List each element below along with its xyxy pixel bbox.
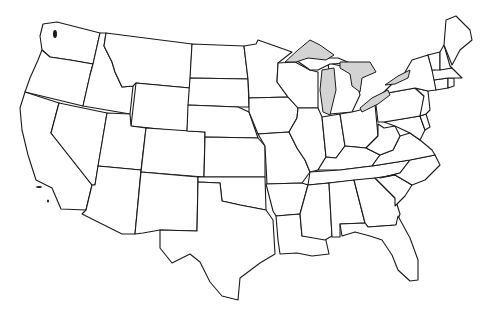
state-florida[interactable] xyxy=(340,216,418,281)
state-maine[interactable] xyxy=(444,16,472,65)
channel-island xyxy=(36,186,42,188)
us-outline-map xyxy=(0,0,488,311)
state-north-dakota[interactable] xyxy=(190,44,248,79)
state-wyoming[interactable] xyxy=(131,83,190,132)
state-kansas[interactable] xyxy=(204,137,265,177)
puget-sound xyxy=(53,30,57,38)
state-rhode-island[interactable] xyxy=(448,78,454,88)
state-south-dakota[interactable] xyxy=(188,78,249,107)
state-colorado[interactable] xyxy=(141,128,205,177)
channel-island-2 xyxy=(47,200,49,203)
state-new-mexico[interactable] xyxy=(135,172,198,234)
